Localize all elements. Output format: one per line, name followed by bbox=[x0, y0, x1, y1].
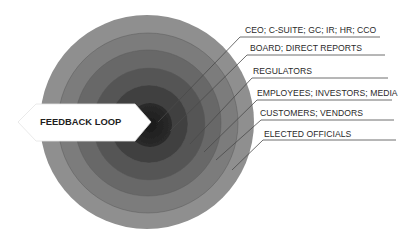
ring-label-elected: ELECTED OFFICIALS bbox=[264, 129, 351, 139]
stakeholder-diagram: FEEDBACK LOOP CEO; C-SUITE; GC; IR; HR; … bbox=[0, 0, 414, 239]
ring-label-customers: CUSTOMERS; VENDORS bbox=[260, 108, 363, 118]
ring-label-regulators: REGULATORS bbox=[253, 66, 312, 76]
ring-label-ceo: CEO; C-SUITE; GC; IR; HR; CCO bbox=[245, 25, 376, 35]
leader-line-elected bbox=[232, 140, 396, 170]
ring-label-board: BOARD; DIRECT REPORTS bbox=[250, 43, 362, 53]
ring-label-employees: EMPLOYEES; INVESTORS; MEDIA bbox=[257, 88, 398, 98]
feedback-loop-label: FEEDBACK LOOP bbox=[40, 117, 121, 127]
